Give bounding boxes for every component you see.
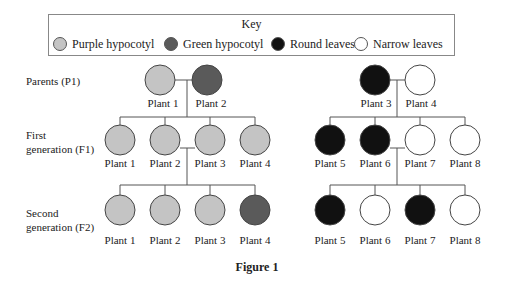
- left-p1-plant1-circle: [145, 65, 175, 95]
- right-f1-label: Plant 8: [450, 157, 481, 169]
- left-f1-label: Plant 4: [240, 157, 271, 169]
- left-f2-label: Plant 1: [105, 234, 136, 246]
- right-f2-label: Plant 7: [405, 234, 436, 246]
- right-f1-label: Plant 5: [315, 157, 346, 169]
- right-p1-label: Plant 3: [361, 97, 392, 109]
- left-p1-plant2-circle: [192, 65, 222, 95]
- left-f2-label: Plant 4: [240, 234, 271, 246]
- right-p1-label: Plant 4: [406, 97, 437, 109]
- left-f2-label: Plant 2: [150, 234, 181, 246]
- right-f1-label: Plant 7: [405, 157, 436, 169]
- figure-caption: Figure 1: [236, 260, 279, 275]
- right-f2-label: Plant 6: [360, 234, 391, 246]
- left-f2-label: Plant 3: [195, 234, 226, 246]
- left-p1-label: Plant 1: [148, 97, 179, 109]
- left-f1-label: Plant 1: [105, 157, 136, 169]
- pedigree-figure: Key Purple hypocotyl Green hypocotyl Rou…: [0, 0, 510, 286]
- left-f1-label: Plant 3: [195, 157, 226, 169]
- left-p1-label: Plant 2: [196, 97, 227, 109]
- right-f2-label: Plant 5: [315, 234, 346, 246]
- left-f1-label: Plant 2: [150, 157, 181, 169]
- right-f1-label: Plant 6: [360, 157, 391, 169]
- right-f2-label: Plant 8: [450, 234, 481, 246]
